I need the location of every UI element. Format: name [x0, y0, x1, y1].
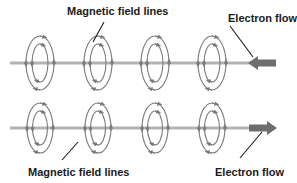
- bottom-electron-flow-label: Electron flow: [215, 166, 285, 178]
- top-magnetic-field-lines-label: Magnetic field lines: [67, 5, 168, 17]
- canvas-background: [0, 0, 297, 183]
- magnetic-field-diagram: Magnetic field lines Electron flow Magne…: [0, 0, 297, 183]
- diagram-canvas: Magnetic field lines Electron flow Magne…: [0, 0, 297, 183]
- top-electron-flow-label: Electron flow: [228, 12, 297, 24]
- bottom-magnetic-field-lines-label: Magnetic field lines: [28, 166, 129, 178]
